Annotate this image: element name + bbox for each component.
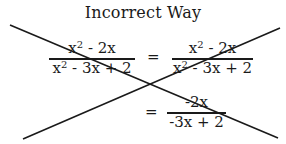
equals-sign-1: = [147,50,160,65]
fraction-cancelled-numerator: x2 - 2x [187,41,238,56]
fraction-cancelled: x2 - 2x x2 - 3x + 2 [170,41,255,76]
equals-sign-2: = [145,105,158,120]
denominator-base: x [52,59,60,77]
fraction-original: x2 - 2x x2 - 3x + 2 [47,41,137,76]
fraction-cancelled-denominator: x2 - 3x + 2 [171,61,254,76]
fraction-result-denominator: -3x + 2 [167,115,226,130]
numerator-base: x [189,39,197,57]
numerator-rest: - 2x [204,39,237,57]
fraction-original-denominator: x2 - 3x + 2 [50,61,133,76]
denominator-rest: - 3x + 2 [188,59,252,77]
fraction-original-numerator: x2 - 2x [66,41,117,56]
numerator-rest: - 2x [83,39,116,57]
numerator-base: x [68,39,76,57]
fraction-result-numerator: -2x [183,95,210,110]
title-heading: Incorrect Way [0,3,286,22]
fraction-result: -2x -3x + 2 [165,95,228,130]
denominator-rest: - 3x + 2 [67,59,131,77]
